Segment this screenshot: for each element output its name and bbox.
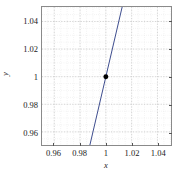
x-tick-mark [132, 143, 133, 146]
x-tick-label: 0.96 [46, 149, 61, 158]
x-tick-mark [106, 143, 107, 146]
x-tick-mark [158, 143, 159, 146]
x-axis-label: x [104, 161, 108, 170]
x-tick-label: 1.02 [125, 149, 140, 158]
y-tick-mark [169, 105, 172, 106]
y-tick-label: 1.02 [23, 44, 38, 53]
y-axis-label: y [1, 72, 10, 76]
y-tick-label: 1 [34, 72, 38, 81]
y-tick-label: 0.98 [23, 100, 38, 109]
y-tick-label: 1.04 [23, 16, 38, 25]
y-tick-mark [169, 133, 172, 134]
data-layer [42, 7, 171, 145]
x-tick-label: 0.98 [72, 149, 87, 158]
y-tick-mark [169, 49, 172, 50]
x-tick-label: 1 [104, 149, 108, 158]
y-tick-mark [169, 77, 172, 78]
x-tick-mark [80, 143, 81, 146]
y-tick-mark [169, 21, 172, 22]
x-tick-label: 1.04 [151, 149, 166, 158]
plot-area [41, 6, 172, 146]
y-tick-label: 0.96 [23, 128, 38, 137]
chart-figure: 0.960.9811.021.040.960.9811.021.04 x y [0, 0, 188, 178]
x-tick-mark [53, 143, 54, 146]
